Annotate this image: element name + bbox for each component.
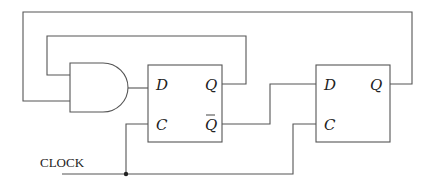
junction-dot — [124, 172, 128, 176]
ff1-q-label: Q — [205, 76, 217, 94]
ff1-d-label: D — [155, 76, 168, 94]
ff2-c-label: C — [324, 116, 336, 134]
ff2-d-label: D — [323, 76, 336, 94]
clock-label: CLOCK — [40, 155, 85, 170]
ff2-q-label: Q — [370, 76, 382, 94]
wire-clock-to-ff1-c — [126, 124, 148, 174]
wire-ff1-qbar-to-ff2-d — [222, 84, 316, 124]
wire-ff2-q-feedback — [23, 12, 412, 101]
wire-clock-to-ff2-c — [62, 124, 316, 174]
ff1-c-label: C — [156, 116, 168, 134]
ff1-qbar-label: Q — [205, 116, 217, 134]
and-gate — [70, 63, 128, 112]
circuit-svg: D Q C Q D Q C CLOCK — [0, 0, 435, 186]
circuit-diagram: D Q C Q D Q C CLOCK — [0, 0, 435, 186]
